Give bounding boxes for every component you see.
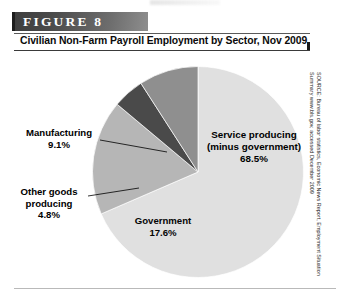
pie-label-government-value: 17.6%	[123, 227, 203, 239]
pie-label-service-name: Service producing	[211, 129, 296, 140]
pie-label-other-goods-name2: producing	[8, 198, 90, 210]
pie-label-government-name: Government	[135, 215, 192, 226]
pie-label-service-name2: (minus government)	[196, 141, 312, 153]
pie-label-manufacturing-name: Manufacturing	[26, 127, 92, 138]
source-note: SOURCE: Bureau of labor statistics, Econ…	[308, 72, 322, 284]
pie-label-manufacturing-value: 9.1%	[16, 139, 102, 151]
pie-label-government: Government 17.6%	[123, 215, 203, 238]
pie-label-service: Service producing (minus government) 68.…	[196, 129, 312, 165]
figure-page: FIGURE 8 Civilian Non-Farm Payroll Emplo…	[0, 0, 353, 297]
pie-slice-group	[92, 67, 303, 278]
pie-label-other-goods: Other goods producing 4.8%	[8, 186, 90, 221]
pie-label-other-goods-value: 4.8%	[8, 209, 90, 221]
bottom-rule	[14, 288, 336, 289]
pie-label-service-value: 68.5%	[196, 153, 312, 165]
pie-label-manufacturing: Manufacturing 9.1%	[16, 127, 102, 150]
pie-label-other-goods-name: Other goods	[20, 186, 77, 197]
